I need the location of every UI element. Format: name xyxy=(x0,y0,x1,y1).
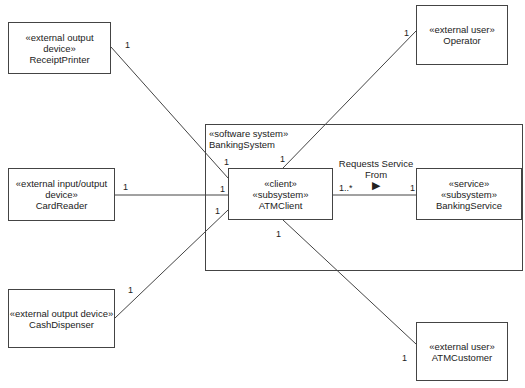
association-label-line1: Requests Service xyxy=(336,158,416,169)
association-label: Requests Service From xyxy=(336,158,416,180)
stereotype: «external input/output xyxy=(16,178,107,189)
multiplicity: 1 xyxy=(410,183,415,193)
node-name: ReceiptPrinter xyxy=(29,54,89,65)
node-name: BankingService xyxy=(436,200,502,211)
direction-arrow-icon: ▶ xyxy=(369,180,383,191)
stereotype: «external user» xyxy=(429,341,494,352)
operator-node[interactable]: «external user» Operator xyxy=(416,5,508,65)
multiplicity: 1 xyxy=(123,182,128,192)
multiplicity: 1 xyxy=(125,40,130,50)
stereotype-cont: device» xyxy=(45,189,78,200)
stereotype: «external output device» xyxy=(9,32,110,54)
multiplicity: 1..* xyxy=(339,183,353,193)
multiplicity: 1 xyxy=(280,154,285,164)
atm-customer-node[interactable]: «external user» ATMCustomer xyxy=(416,322,508,381)
stereotype-subsystem: «subsystem» xyxy=(253,189,309,200)
system-stereotype: «software system» xyxy=(209,128,288,139)
node-name: CashDispenser xyxy=(29,319,94,330)
card-reader-node[interactable]: «external input/output device» CardReade… xyxy=(8,168,115,221)
cash-dispenser-node[interactable]: «external output device» CashDispenser xyxy=(8,289,115,348)
multiplicity: 1 xyxy=(215,206,220,216)
node-name: ATMCustomer xyxy=(432,352,493,363)
stereotype: «external user» xyxy=(429,24,494,35)
stereotype: «external output device» xyxy=(10,308,114,319)
node-name: Operator xyxy=(443,35,481,46)
multiplicity: 1 xyxy=(404,28,409,38)
system-name: BankingSystem xyxy=(209,139,288,150)
multiplicity: 1 xyxy=(220,184,225,194)
stereotype-subsystem: «subsystem» xyxy=(441,189,497,200)
multiplicity: 1 xyxy=(224,157,229,167)
node-name: ATMClient xyxy=(259,200,303,211)
node-name: CardReader xyxy=(36,200,88,211)
multiplicity: 1 xyxy=(402,353,407,363)
multiplicity: 1 xyxy=(128,285,133,295)
stereotype: «service» xyxy=(449,178,490,189)
receipt-printer-node[interactable]: «external output device» ReceiptPrinter xyxy=(8,22,111,74)
banking-service-node[interactable]: «service» «subsystem» BankingService xyxy=(416,168,522,220)
atm-client-node[interactable]: «client» «subsystem» ATMClient xyxy=(228,168,333,220)
system-label: «software system» BankingSystem xyxy=(209,128,288,150)
multiplicity: 1 xyxy=(276,229,281,239)
stereotype: «client» xyxy=(264,178,297,189)
